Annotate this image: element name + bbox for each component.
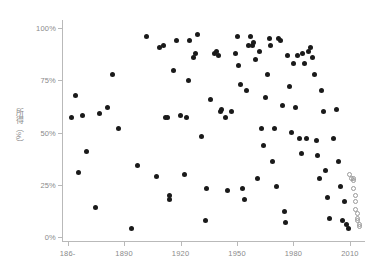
- data-point: [263, 95, 268, 100]
- data-point: [293, 105, 298, 110]
- data-point: [208, 97, 213, 102]
- data-point: [199, 134, 204, 139]
- data-point: [219, 107, 224, 112]
- data-point: [93, 205, 98, 210]
- data-point: [289, 130, 294, 135]
- data-point: [312, 72, 317, 77]
- plot-area: [0, 0, 369, 274]
- data-point: [80, 113, 85, 118]
- data-point: [308, 45, 313, 50]
- data-point: [268, 43, 273, 48]
- data-point: [315, 153, 320, 158]
- data-point: [261, 143, 266, 148]
- data-point: [165, 115, 170, 120]
- data-point: [244, 88, 249, 93]
- data-point: [270, 159, 275, 164]
- data-point: [84, 149, 89, 154]
- data-point: [317, 176, 322, 181]
- data-point: [300, 51, 305, 56]
- data-point: [69, 115, 74, 120]
- data-point: [299, 151, 304, 156]
- data-point: [248, 34, 253, 39]
- data-point: [351, 186, 356, 191]
- data-point: [73, 93, 78, 98]
- data-point: [76, 170, 81, 175]
- data-point: [285, 53, 290, 58]
- data-point: [225, 188, 230, 193]
- data-point: [272, 126, 277, 131]
- data-point: [331, 136, 336, 141]
- data-point: [267, 36, 272, 41]
- data-point: [178, 113, 183, 118]
- data-point: [334, 107, 339, 112]
- data-point: [240, 186, 245, 191]
- data-point: [297, 136, 302, 141]
- data-point: [195, 32, 200, 37]
- data-point: [174, 38, 179, 43]
- data-point: [255, 176, 260, 181]
- data-point: [187, 38, 192, 43]
- data-point: [204, 186, 209, 191]
- data-point: [346, 226, 351, 231]
- data-point: [351, 178, 356, 183]
- data-point: [235, 34, 240, 39]
- data-point: [327, 216, 332, 221]
- data-point: [182, 172, 187, 177]
- data-point: [229, 109, 234, 114]
- data-point: [259, 126, 264, 131]
- data-point: [135, 163, 140, 168]
- data-point: [353, 193, 358, 198]
- data-point: [295, 53, 300, 58]
- data-point: [314, 138, 319, 143]
- data-point: [325, 195, 330, 200]
- data-point: [105, 105, 110, 110]
- data-point: [242, 197, 247, 202]
- data-point: [110, 72, 115, 77]
- data-point: [321, 109, 326, 114]
- data-point: [342, 199, 347, 204]
- data-point: [154, 174, 159, 179]
- data-point: [353, 199, 358, 204]
- data-point: [186, 78, 191, 83]
- data-point: [257, 49, 262, 54]
- data-point: [265, 72, 270, 77]
- data-point: [338, 184, 343, 189]
- data-point: [253, 57, 258, 62]
- data-point: [223, 115, 228, 120]
- data-point: [302, 61, 307, 66]
- data-point: [167, 193, 172, 198]
- data-point: [283, 220, 288, 225]
- data-point: [129, 226, 134, 231]
- data-point: [97, 111, 102, 116]
- scatter-chart-figure: 所得（%） 0%25%50%75%100% 186-18901920195019…: [0, 0, 369, 274]
- data-point: [236, 63, 241, 68]
- data-point: [280, 103, 285, 108]
- data-point: [193, 51, 198, 56]
- data-point: [336, 159, 341, 164]
- data-point: [144, 34, 149, 39]
- data-point: [323, 168, 328, 173]
- data-point: [310, 55, 315, 60]
- data-point: [282, 209, 287, 214]
- data-point: [116, 126, 121, 131]
- data-point: [278, 38, 283, 43]
- data-point: [184, 115, 189, 120]
- data-point: [203, 218, 208, 223]
- data-point: [357, 224, 362, 229]
- data-point: [161, 43, 166, 48]
- data-point: [274, 184, 279, 189]
- data-point: [319, 88, 324, 93]
- data-point: [233, 51, 238, 56]
- data-point: [304, 136, 309, 141]
- data-point: [251, 40, 256, 45]
- data-point: [287, 84, 292, 89]
- data-point: [238, 82, 243, 87]
- data-point: [291, 61, 296, 66]
- data-point: [216, 53, 221, 58]
- data-point: [171, 68, 176, 73]
